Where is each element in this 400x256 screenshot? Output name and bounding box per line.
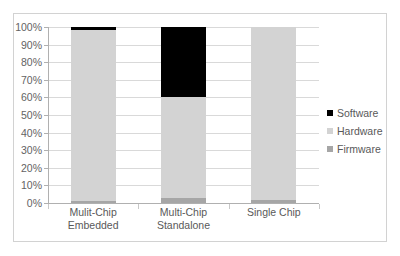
x-axis-label-line: Embedded (48, 219, 138, 232)
plot-area: 100%90%80%70%60%50%40%30%20%10%0% (48, 27, 319, 203)
legend-swatch-icon (327, 110, 333, 116)
x-axis-category-separator (319, 204, 320, 209)
x-axis-category-label: Multi-ChipStandalone (139, 206, 229, 231)
bar-stack (161, 27, 206, 203)
bar-column[interactable] (161, 27, 206, 203)
y-axis-tick-label: 100% (15, 22, 42, 33)
chart-container: 100%90%80%70%60%50%40%30%20%10%0% Mulit-… (13, 13, 387, 242)
bar-segment-firmware[interactable] (71, 201, 116, 203)
y-axis-tick-label: 0% (27, 198, 42, 209)
legend-label: Firmware (337, 143, 381, 155)
bar-segment-hardware[interactable] (71, 30, 116, 202)
bar-segment-firmware[interactable] (251, 200, 296, 203)
chart-legend: SoftwareHardwareFirmware (327, 104, 397, 158)
bar-segment-hardware[interactable] (251, 27, 296, 200)
legend-label: Software (337, 107, 378, 119)
x-axis-category-separator (48, 204, 49, 209)
bar-stack (71, 27, 116, 203)
gridline (48, 203, 319, 204)
x-axis-labels: Mulit-ChipEmbeddedMulti-ChipStandaloneSi… (48, 206, 319, 240)
bar-stack (251, 27, 296, 203)
bar-segment-software[interactable] (161, 27, 206, 97)
bar-column[interactable] (251, 27, 296, 203)
y-axis-tick-label: 30% (21, 145, 42, 156)
y-axis-line (48, 27, 49, 203)
y-axis-tick-label: 70% (21, 75, 42, 86)
y-axis-tick-label: 60% (21, 92, 42, 103)
x-axis-label-line: Mulit-Chip (48, 206, 138, 219)
x-axis-category-separator (229, 204, 230, 209)
legend-swatch-icon (327, 146, 333, 152)
x-axis-label-line: Standalone (139, 219, 229, 232)
bar-column[interactable] (71, 27, 116, 203)
y-axis-tick-label: 20% (21, 163, 42, 174)
x-axis-category-label: Mulit-ChipEmbedded (48, 206, 138, 231)
y-axis-tick-label: 10% (21, 180, 42, 191)
x-axis-category-separator (138, 204, 139, 209)
bar-segment-hardware[interactable] (161, 97, 206, 197)
legend-item-firmware[interactable]: Firmware (327, 140, 397, 158)
y-axis-tick-label: 80% (21, 57, 42, 68)
legend-item-hardware[interactable]: Hardware (327, 122, 397, 140)
bar-segment-software[interactable] (71, 27, 116, 30)
x-axis-label-line: Single Chip (229, 206, 319, 219)
x-axis-label-line: Multi-Chip (139, 206, 229, 219)
x-axis-category-label: Single Chip (229, 206, 319, 219)
legend-item-software[interactable]: Software (327, 104, 397, 122)
legend-swatch-icon (327, 128, 333, 134)
y-axis-tick-label: 40% (21, 127, 42, 138)
y-axis-tick-label: 50% (21, 110, 42, 121)
y-axis-tick-label: 90% (21, 39, 42, 50)
legend-label: Hardware (337, 125, 383, 137)
bar-segment-firmware[interactable] (161, 198, 206, 203)
